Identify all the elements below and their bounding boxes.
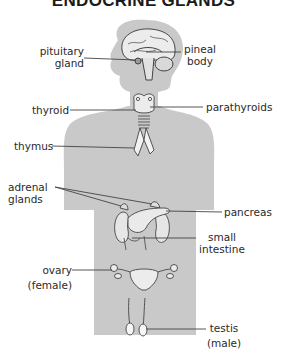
label-line: ovary [22,264,72,276]
label-line: pituitary [30,45,84,57]
label-pancreas: pancreas [224,206,272,218]
label-thymus: thymus [14,140,53,152]
thyroid-icon [134,94,155,113]
label-line: testis [204,322,244,334]
label-thyroid: thyroid [32,104,69,116]
label-line: intestine [198,243,246,255]
label-adrenal-glands: adrenal glands [8,181,48,205]
label-line: body [180,55,220,67]
label-small-intestine: small intestine [198,231,246,255]
label-line: adrenal [8,181,48,193]
label-ovary: ovary (female) [22,264,72,291]
label-line: (male) [204,337,244,349]
label-line: gland [30,57,84,69]
label-line: small [198,231,246,243]
label-parathyroids: parathyroids [206,101,272,113]
label-pituitary-gland: pituitary gland [30,45,84,69]
label-line: pineal [180,43,220,55]
label-pineal-body: pineal body [180,43,220,67]
label-testis: testis (male) [204,322,244,349]
label-line: (female) [22,279,72,291]
label-line: glands [8,193,48,205]
